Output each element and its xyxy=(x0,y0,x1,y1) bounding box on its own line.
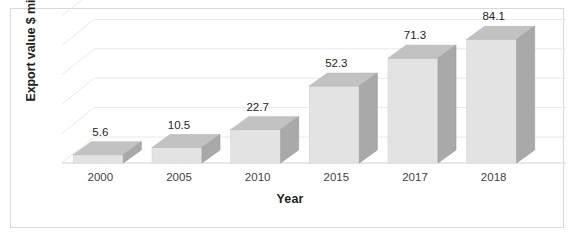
bar-2018 xyxy=(467,26,535,163)
value-label-2005: 10.5 xyxy=(168,119,190,131)
bar-side-face xyxy=(438,45,456,163)
bar-2005 xyxy=(152,135,220,163)
bar-front-face xyxy=(231,130,281,163)
bar-side-face xyxy=(517,26,535,163)
bar-front-face xyxy=(309,86,359,163)
bar-front-face xyxy=(388,58,438,163)
x-tick-2000: 2000 xyxy=(88,171,114,183)
value-label-2015: 52.3 xyxy=(325,57,347,69)
chart-figure: Export value $ million Year 200020052010… xyxy=(0,0,580,240)
bar-2010 xyxy=(231,117,299,163)
bars-group xyxy=(73,26,534,163)
x-tick-2015: 2015 xyxy=(324,171,350,183)
value-label-2010: 22.7 xyxy=(246,101,268,113)
depth-connector xyxy=(62,0,94,16)
x-tick-2018: 2018 xyxy=(481,171,507,183)
bar-front-face xyxy=(152,148,202,163)
bar-2017 xyxy=(388,45,456,163)
depth-connector xyxy=(62,78,94,104)
bar-front-face xyxy=(73,155,123,163)
bar-front-face xyxy=(467,39,517,163)
x-tick-2005: 2005 xyxy=(166,171,192,183)
x-tick-2017: 2017 xyxy=(402,171,428,183)
depth-connector xyxy=(62,49,94,75)
value-label-2000: 5.6 xyxy=(92,126,108,138)
x-tick-labels-group: 200020052010201520172018 xyxy=(88,171,507,183)
x-tick-2010: 2010 xyxy=(245,171,271,183)
plot-area: 200020052010201520172018 5.610.522.752.3… xyxy=(0,0,580,240)
value-label-2018: 84.1 xyxy=(482,10,504,22)
bar-2015 xyxy=(309,73,377,163)
value-label-2017: 71.3 xyxy=(404,29,426,41)
bar-side-face xyxy=(359,73,377,163)
depth-connector xyxy=(62,19,94,45)
depth-connector xyxy=(62,108,94,134)
